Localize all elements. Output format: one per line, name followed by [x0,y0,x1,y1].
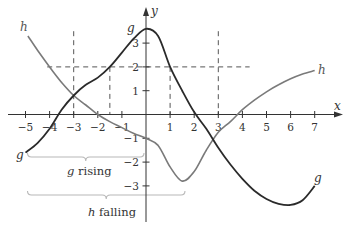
h-label-end: h [318,63,326,77]
y-axis-label: y [150,4,158,18]
g-rising-word: rising [78,164,112,178]
h-falling-word: falling [99,205,137,219]
h-falling-annotation: h falling [88,205,137,219]
h-label-start: h [20,20,28,34]
x-tick-label: 6 [287,121,294,133]
x-tick-label: −5 [18,121,33,133]
x-axis-label: x [334,99,341,113]
x-tick-label: 7 [311,121,318,133]
y-tick-label: 2 [132,61,139,73]
g-rising-annotation: g rising [67,164,112,178]
g-label-end: g [314,171,322,185]
x-tick-label: 5 [263,121,270,133]
y-tick-label: −2 [124,156,139,168]
h-curve [28,36,315,181]
chart: −5−4−3−2−11234567 −3−2−1123 x y h h g g … [0,0,349,229]
x-tick-label: 1 [167,121,174,133]
y-tick-label: 1 [132,85,139,97]
y-tick-label: −3 [124,180,139,192]
x-tick-label: 4 [239,121,246,133]
brace [28,191,185,199]
reference-lines [47,31,249,114]
x-tick-label: −4 [42,121,58,133]
h-falling-var: h [88,205,95,219]
x-tick-label: −2 [90,121,105,133]
g-label-start: g [16,148,24,162]
g-rising-var: g [67,164,74,178]
g-label-peak: g [127,21,135,35]
x-tick-label: 2 [191,121,198,133]
x-tick-label: −3 [66,121,81,133]
